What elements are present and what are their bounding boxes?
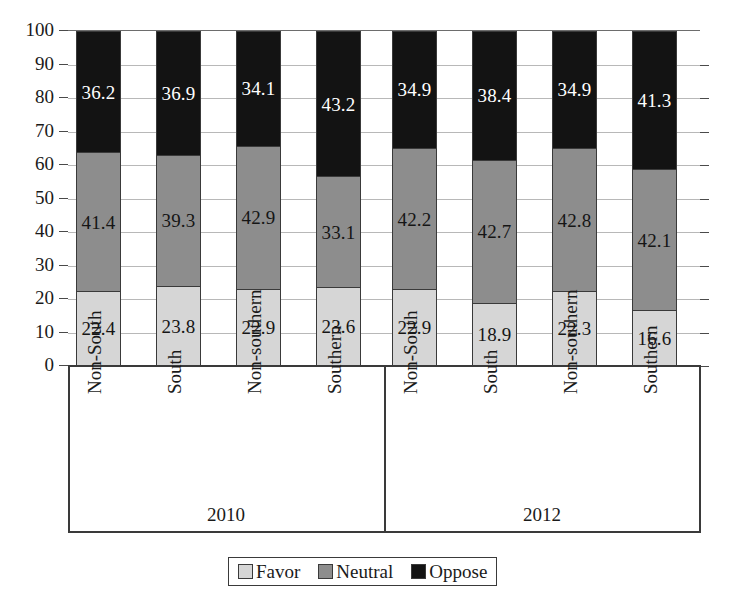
x-axis-category-label: Southern [641, 325, 660, 394]
bar-stack: 43.233.123.6 [316, 31, 361, 366]
y-axis-tick-label: 30 [6, 255, 54, 274]
bar-segment-oppose: 43.2 [316, 31, 361, 176]
legend-item: Oppose [411, 562, 487, 581]
bar-stack: 38.442.718.9 [472, 31, 517, 366]
x-axis-category-label: Non-southern [561, 290, 580, 394]
y-axis-tick-label: 90 [6, 54, 54, 73]
y-axis-right-tick-mark [700, 299, 709, 300]
bar-value-label: 18.9 [477, 325, 511, 344]
x-axis-category-label: Non-South [85, 311, 104, 394]
y-axis-tick-mark [59, 97, 68, 98]
chart-legend: FavorNeutralOppose [228, 557, 497, 586]
legend-label: Oppose [429, 562, 487, 581]
legend-item: Favor [238, 562, 300, 581]
bar-segment-neutral: 42.2 [392, 148, 437, 289]
bar-value-label: 42.7 [477, 222, 511, 241]
bar-value-label: 42.2 [397, 210, 431, 229]
y-axis-tick-label: 60 [6, 154, 54, 173]
legend-swatch-icon [238, 564, 253, 579]
bar-segment-oppose: 34.1 [236, 31, 281, 145]
y-axis-tick-mark [59, 231, 68, 232]
y-axis-tick-label: 80 [6, 87, 54, 106]
bar-segment-neutral: 42.9 [236, 146, 281, 290]
y-axis-right-tick-mark [700, 232, 709, 233]
y-axis-tick-label: 20 [6, 288, 54, 307]
x-axis-category-label: Non-southern [245, 290, 264, 394]
bar-value-label: 43.2 [321, 95, 355, 114]
bar-segment-neutral: 33.1 [316, 176, 361, 287]
bar-segment-oppose: 38.4 [472, 31, 517, 160]
y-axis-tick-label: 100 [6, 20, 54, 39]
legend-item: Neutral [318, 562, 393, 581]
y-axis-right-tick-mark [700, 165, 709, 166]
bar-value-label: 39.3 [161, 211, 195, 230]
x-axis-group-label: 2010 [186, 505, 266, 524]
y-axis-right-tick-mark [700, 132, 709, 133]
x-axis-category-label: Non-South [401, 311, 420, 394]
y-axis-right-tick-mark [700, 199, 709, 200]
y-axis-tick-mark [59, 164, 68, 165]
y-axis-tick-label: 40 [6, 221, 54, 240]
y-axis-right-tick-mark [700, 98, 709, 99]
bar-segment-neutral: 42.7 [472, 160, 517, 303]
y-axis-tick-mark [59, 198, 68, 199]
legend-label: Neutral [336, 562, 393, 581]
group-divider [384, 366, 386, 532]
bar-value-label: 42.1 [637, 231, 671, 250]
y-axis-tick-mark [59, 64, 68, 65]
y-axis-tick-mark [59, 332, 68, 333]
bar-segment-neutral: 42.8 [552, 148, 597, 291]
bar-value-label: 38.4 [477, 86, 511, 105]
bar-value-label: 23.8 [161, 317, 195, 336]
y-axis-right-tick-mark [700, 366, 709, 367]
y-axis-right-tick-mark [700, 65, 709, 66]
bar-value-label: 34.9 [557, 80, 591, 99]
x-axis-category-label: South [481, 350, 500, 394]
y-axis-tick-label: 0 [6, 355, 54, 374]
y-axis-tick-mark [59, 298, 68, 299]
legend-label: Favor [256, 562, 300, 581]
x-axis-group-label: 2012 [502, 505, 582, 524]
plot-area: 36.241.422.436.939.323.834.142.922.943.2… [68, 30, 700, 366]
bar-value-label: 42.8 [557, 211, 591, 230]
x-axis-category-label: South [165, 350, 184, 394]
bar-segment-neutral: 39.3 [156, 155, 201, 287]
bar-value-label: 36.2 [81, 83, 115, 102]
y-axis-tick-mark [59, 131, 68, 132]
y-axis-tick-mark [59, 265, 68, 266]
y-axis-tick-label: 70 [6, 121, 54, 140]
bar-segment-neutral: 41.4 [76, 152, 121, 291]
y-axis-right-tick-mark [700, 266, 709, 267]
x-axis-category-label: Southern [325, 325, 344, 394]
bar-value-label: 41.3 [637, 91, 671, 110]
bar-segment-oppose: 36.2 [76, 31, 121, 152]
y-axis-tick-mark [59, 365, 68, 366]
bar-value-label: 34.9 [397, 80, 431, 99]
bar-value-label: 36.9 [161, 84, 195, 103]
legend-swatch-icon [318, 564, 333, 579]
bar-value-label: 42.9 [241, 208, 275, 227]
bar-segment-oppose: 41.3 [632, 31, 677, 169]
y-axis-right-tick-mark [700, 333, 709, 334]
stacked-bar-chart: 0102030405060708090100 36.241.422.436.93… [0, 0, 730, 613]
bar-stack: 36.939.323.8 [156, 31, 201, 366]
legend-swatch-icon [411, 564, 426, 579]
bar-segment-oppose: 34.9 [552, 31, 597, 148]
bar-value-label: 33.1 [321, 223, 355, 242]
y-axis-tick-label: 50 [6, 188, 54, 207]
y-axis-tick-label: 10 [6, 322, 54, 341]
y-axis: 0102030405060708090100 [0, 18, 68, 378]
bar-value-label: 41.4 [81, 213, 115, 232]
bar-segment-neutral: 42.1 [632, 169, 677, 310]
bar-stack: 41.342.116.6 [632, 31, 677, 366]
y-axis-tick-mark [59, 30, 68, 31]
bar-segment-oppose: 36.9 [156, 31, 201, 155]
bar-segment-oppose: 34.9 [392, 31, 437, 148]
bar-value-label: 34.1 [241, 79, 275, 98]
